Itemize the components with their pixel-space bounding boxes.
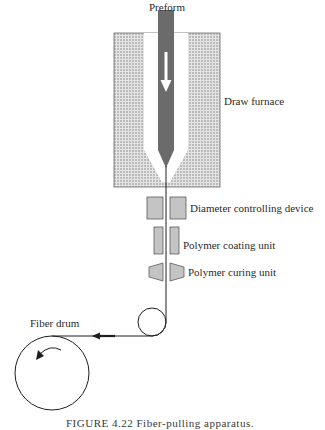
guide-pulley (138, 308, 166, 336)
label-polymer-curing-unit: Polymer curing unit (188, 267, 276, 278)
label-fiber-drum: Fiber drum (30, 318, 79, 329)
label-diameter-controlling-device: Diameter controlling device (190, 203, 313, 214)
left-arrow-icon (92, 333, 115, 340)
label-preform: Preform (149, 2, 185, 13)
fiber-drum (15, 336, 89, 410)
label-draw-furnace: Draw furnace (224, 96, 284, 107)
rotation-arrow-icon (36, 348, 61, 360)
label-polymer-coating-unit: Polymer coating unit (183, 240, 275, 251)
preform-rod (158, 10, 174, 168)
fiber-line (52, 166, 166, 336)
figure-caption: FIGURE 4.22 Fiber-pulling apparatus. (66, 418, 254, 429)
